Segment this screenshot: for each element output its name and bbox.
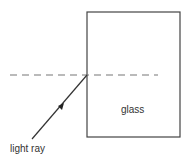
diagram-canvas: [0, 0, 192, 164]
light-ray-label: light ray: [10, 144, 45, 154]
glass-label: glass: [121, 105, 144, 115]
arrowhead-icon: [58, 103, 64, 110]
